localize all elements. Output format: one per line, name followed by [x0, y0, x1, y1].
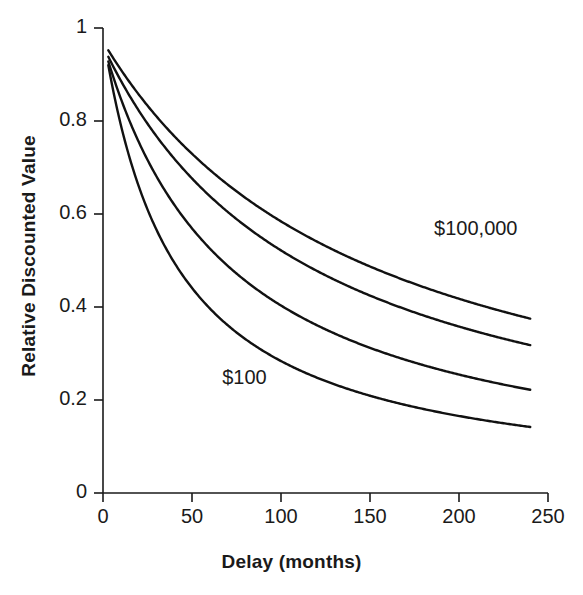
- x-tick-label: 50: [162, 505, 222, 528]
- x-tick-label: 200: [429, 505, 489, 528]
- x-tick-label: 150: [340, 505, 400, 528]
- y-tick-label: 1: [27, 15, 87, 38]
- discount-curve: [108, 50, 530, 318]
- plot-axes: [94, 28, 548, 502]
- chart-figure: 050100150200250 00.20.40.60.81 $100,000$…: [0, 0, 583, 595]
- y-axis-title: Relative Discounted Value: [18, 91, 40, 421]
- x-tick-label: 100: [251, 505, 311, 528]
- series-annotation: $100: [222, 366, 267, 389]
- x-axis-title: Delay (months): [0, 551, 583, 573]
- y-tick-label: 0: [27, 480, 87, 503]
- x-tick-label: 250: [518, 505, 578, 528]
- discount-curve: [108, 65, 530, 427]
- x-tick-label: 0: [73, 505, 133, 528]
- series-annotation: $100,000: [434, 217, 517, 240]
